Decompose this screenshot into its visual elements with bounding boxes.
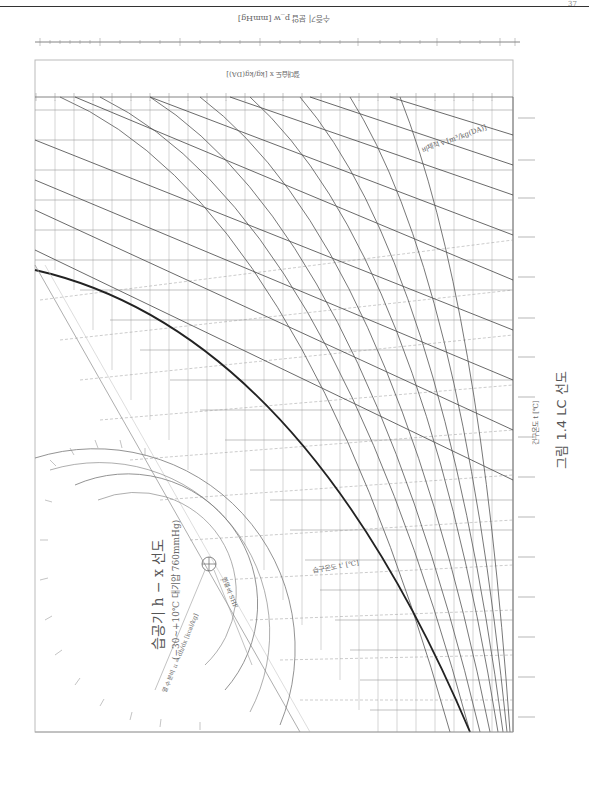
psychrometric-chart [0, 0, 589, 811]
figure-caption-text: 그림 1.4 LC 선도 [551, 371, 570, 468]
chart-subtitle: (−30∼+10℃ 대기압 760mmHg) [169, 520, 182, 660]
chart-title-block: 습공기 h − x 선도 (−30∼+10℃ 대기압 760mmHg) [117, 490, 197, 650]
figure-caption: 그림 1.4 LC 선도 [540, 360, 580, 480]
dry-bulb-label: 건구온도 t [℃] [530, 400, 540, 445]
chart-title: 습공기 h − x 선도 [147, 539, 167, 650]
saturation-curve [35, 270, 470, 732]
humidity-scale-label: 절대습도 x [kg/kg(DA)] [226, 70, 300, 80]
top-scale-label: 수증기 분압 p_w [mmHg] [238, 14, 330, 25]
